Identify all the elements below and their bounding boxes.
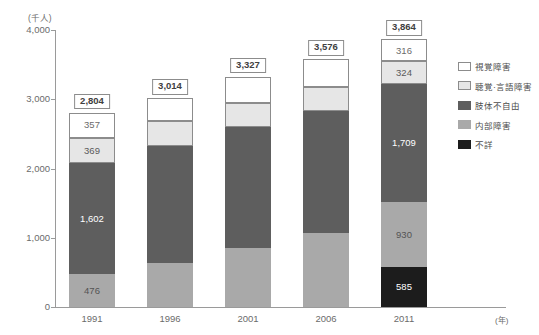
legend-swatch-icon [458,120,471,129]
y-axis-tick-label: 0 [0,302,50,312]
bar-segment-limb[interactable]: 1,709 [381,84,427,202]
bar-segment-limb[interactable] [147,146,193,264]
bar-segment-value: 1,602 [80,214,104,224]
bar-segment-internal[interactable]: 476 [69,274,115,307]
bar-segment-hearing[interactable]: 324 [381,61,427,83]
x-axis-tick-label: 2006 [291,313,361,324]
bar-column[interactable] [147,98,193,307]
bar-segment-limb[interactable] [225,127,271,248]
bar-column[interactable]: 5859301,709324316 [381,39,427,307]
y-axis-tick-label: 4,000 [0,25,50,35]
legend-swatch-icon [458,140,471,149]
bar-segment-hearing[interactable] [147,121,193,145]
legend-item-label: 肢体不自由 [475,99,520,111]
legend-item-label: 不詳 [475,138,493,150]
legend-item[interactable]: 内部障害 [458,119,538,131]
y-axis-tick-mark [51,169,56,170]
legend-swatch-icon [458,101,471,110]
bar-segment-value: 476 [84,286,100,296]
bar-segment-internal[interactable] [225,248,271,307]
bar-segment-visual[interactable]: 316 [381,39,427,61]
chart-legend: 視覚障害聴覚·言語障害肢体不自由内部障害不詳 [458,60,538,158]
bar-column[interactable] [225,77,271,307]
bar-segment-internal[interactable] [147,263,193,307]
legend-item-label: 内部障害 [475,119,511,131]
bar-segment-limb[interactable] [303,111,349,233]
bar-segment-value: 1,709 [392,138,416,148]
legend-item-label: 視覚障害 [475,60,511,72]
bar-segment-visual[interactable] [147,98,193,121]
bar-segment-value: 930 [396,230,412,240]
bar-column[interactable]: 4761,602369357 [69,113,115,307]
bar-total-label: 3,327 [230,58,266,73]
y-axis-tick-mark [51,307,56,308]
y-axis-tick-mark [51,238,56,239]
y-axis-tick-mark [51,99,56,100]
bar-column[interactable] [303,59,349,307]
bar-segment-visual[interactable]: 357 [69,113,115,138]
x-axis-tick-label: 2011 [369,313,439,324]
bar-segment-value: 585 [396,282,412,292]
x-axis-tick-label: 1996 [135,313,205,324]
x-axis-tick-label: 1991 [57,313,127,324]
bar-total-label: 3,864 [386,20,422,35]
y-axis-unit-label: (千人) [28,11,52,23]
bar-segment-hearing[interactable] [225,103,271,127]
legend-item-label: 聴覚·言語障害 [475,80,532,92]
bar-segment-limb[interactable]: 1,602 [69,163,115,274]
bar-segment-internal[interactable]: 930 [381,202,427,266]
bar-segment-internal[interactable] [303,233,349,307]
bar-total-label: 3,576 [308,40,344,55]
y-axis-tick-label: 3,000 [0,94,50,104]
bar-segment-visual[interactable] [225,77,271,104]
legend-item[interactable]: 肢体不自由 [458,99,538,111]
x-axis-unit-label: (年) [495,314,508,325]
y-axis-tick-mark [51,30,56,31]
y-axis-tick-label: 2,000 [0,164,50,174]
bar-segment-hearing[interactable]: 369 [69,138,115,164]
bar-total-label: 2,804 [74,94,110,109]
legend-swatch-icon [458,62,471,71]
y-axis-tick-label: 1,000 [0,233,50,243]
bar-total-label: 3,014 [152,79,188,94]
legend-item[interactable]: 聴覚·言語障害 [458,80,538,92]
bar-segment-value: 357 [84,120,100,130]
bar-segment-value: 369 [84,146,100,156]
bar-segment-value: 316 [396,46,412,56]
bar-segment-hearing[interactable] [303,87,349,111]
x-axis-line [55,307,506,308]
legend-swatch-icon [458,81,471,90]
x-axis-tick-label: 2001 [213,313,283,324]
legend-item[interactable]: 視覚障害 [458,60,538,72]
bar-segment-visual[interactable] [303,59,349,87]
bar-segment-unknown[interactable]: 585 [381,267,427,308]
legend-item[interactable]: 不詳 [458,138,538,150]
stacked-bar-chart: (千人) 01,0002,0003,0004,000 4761,60236935… [0,0,539,335]
bar-segment-value: 324 [396,68,412,78]
